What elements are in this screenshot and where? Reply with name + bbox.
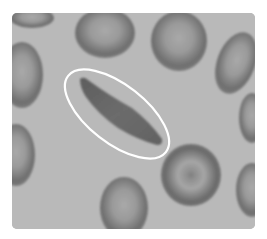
micrograph-frame <box>12 13 255 229</box>
target-cell <box>161 144 221 206</box>
blood-smear-image <box>12 13 255 229</box>
red-blood-cell <box>151 13 207 71</box>
